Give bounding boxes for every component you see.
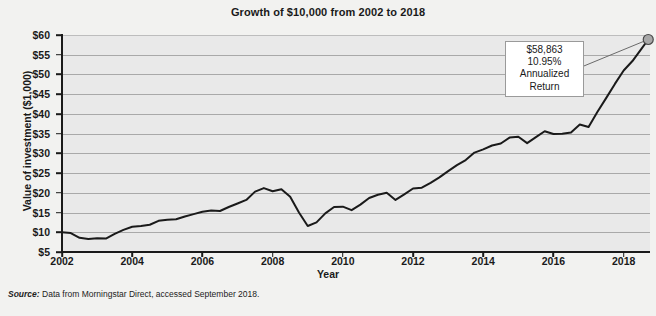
chart-figure: Growth of $10,000 from 2002 to 2018 Valu… (0, 0, 656, 316)
source-label: Source: (8, 289, 40, 299)
x-tick-mark (61, 252, 63, 257)
series-endpoint-marker (643, 34, 653, 44)
source-note: Source: Data from Morningstar Direct, ac… (8, 289, 259, 299)
annotation-rate: 10.95% (509, 56, 580, 68)
annotation-value: $58,863 (509, 44, 580, 56)
source-text: Data from Morningstar Direct, accessed S… (42, 289, 259, 299)
x-tick-mark (553, 252, 555, 257)
annotation-line-2: Return (509, 81, 580, 93)
x-tick-mark (482, 252, 484, 257)
x-tick-mark (412, 252, 414, 257)
x-tick-mark (623, 252, 625, 257)
annotation-callout: $58,863 10.95% Annualized Return (505, 41, 584, 97)
x-tick-mark (272, 252, 274, 257)
x-axis-title: Year (0, 268, 656, 280)
x-tick-mark (342, 252, 344, 257)
annotation-line-1: Annualized (509, 68, 580, 80)
x-tick-mark (131, 252, 133, 257)
x-tick-mark (202, 252, 204, 257)
